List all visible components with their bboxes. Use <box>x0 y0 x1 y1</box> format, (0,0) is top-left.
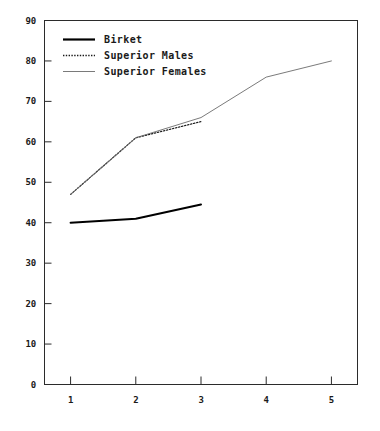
x-axis-ticks <box>71 377 332 385</box>
y-tick-label: 30 <box>0 258 36 268</box>
y-axis-ticks <box>45 21 52 385</box>
y-tick-label: 0 <box>0 380 36 390</box>
x-tick-label: 4 <box>264 395 269 405</box>
chart-figure: 0102030405060708090 12345 Birket Superio… <box>0 0 380 431</box>
x-tick-label: 5 <box>329 395 334 405</box>
x-tick-label: 2 <box>133 395 138 405</box>
legend-item-superior-males: Superior Males <box>62 49 207 62</box>
y-tick-label: 40 <box>0 218 36 228</box>
y-tick-label: 60 <box>0 137 36 147</box>
legend-label-superior-females: Superior Females <box>104 66 207 77</box>
data-series-group <box>71 61 332 223</box>
legend-label-superior-males: Superior Males <box>104 50 194 61</box>
legend-swatch-thin-icon <box>62 66 96 77</box>
x-tick-label: 3 <box>198 395 203 405</box>
y-tick-label: 20 <box>0 299 36 309</box>
y-tick-label: 10 <box>0 339 36 349</box>
series-line-birket <box>71 205 201 223</box>
y-tick-label: 70 <box>0 96 36 106</box>
legend-label-birket: Birket <box>104 34 143 45</box>
chart-legend: Birket Superior Males Superior Females <box>62 33 207 78</box>
y-tick-label: 90 <box>0 16 36 26</box>
x-tick-label: 1 <box>68 395 73 405</box>
series-line-superior-males <box>71 122 201 195</box>
series-line-superior-females <box>71 61 332 194</box>
legend-swatch-dotted-icon <box>62 50 96 61</box>
legend-item-superior-females: Superior Females <box>62 65 207 78</box>
legend-item-birket: Birket <box>62 33 207 46</box>
y-tick-label: 50 <box>0 177 36 187</box>
y-tick-label: 80 <box>0 56 36 66</box>
legend-swatch-solid-icon <box>62 34 96 45</box>
